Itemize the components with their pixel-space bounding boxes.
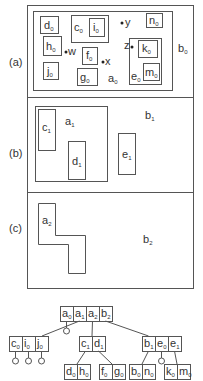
label-b0: b0 [178, 42, 188, 55]
label-n0: n0 [149, 14, 159, 27]
panel-label-b: (b) [9, 147, 22, 159]
label-b1: b1 [145, 109, 155, 122]
tree-edge [142, 351, 149, 364]
tree-cell-label-n0: n0 [144, 365, 154, 378]
label-d0: d0 [44, 19, 54, 32]
label-b2: b2 [143, 233, 153, 246]
label-j0: j0 [46, 65, 53, 78]
label-k0: k0 [142, 42, 152, 55]
tree-cell-label-e0: e0 [157, 337, 167, 350]
null-pointer-icon [64, 328, 70, 334]
label-c0: c0 [74, 21, 84, 34]
hierarchical-region-diagram: (a) (b) (c) b0a0d0c0i0h0f0j0g0n0e0k0m0wx… [0, 0, 203, 381]
tree-cell-label-a2: a2 [88, 307, 98, 320]
tree-cell-label-b1: b1 [144, 337, 154, 350]
tree-cell-label-i0: i0 [24, 337, 30, 350]
panel-b-frame [28, 98, 194, 193]
label-a2: a2 [42, 214, 52, 227]
panel-c-frame [28, 193, 194, 289]
null-pointer-icon [39, 358, 45, 364]
tree-cell-label-d1: d1 [94, 337, 104, 350]
null-pointer-icon [26, 358, 32, 364]
label-m0: m0 [145, 66, 158, 79]
tree-cell-label-f0: f0 [101, 365, 108, 378]
tree-edge [106, 321, 149, 336]
panel-label-c: (c) [9, 222, 22, 234]
panel-label-a: (a) [9, 56, 22, 68]
tree-cell-label-a1: a1 [75, 307, 85, 320]
label-i0: i0 [93, 21, 99, 34]
label-f0: f0 [86, 49, 93, 62]
tree-cell-label-d0: d0 [66, 365, 76, 378]
tree-cell-label-b2: b2 [101, 307, 111, 320]
tree-cell-label-g0: g0 [114, 365, 124, 378]
point-y [121, 22, 124, 25]
label-e1: e1 [122, 148, 132, 161]
tree-cell-label-a0: a0 [62, 307, 72, 320]
label-c1: c1 [42, 121, 52, 134]
label-a0: a0 [108, 72, 118, 85]
tree-edge [99, 351, 113, 364]
label-d1: d1 [72, 155, 82, 168]
label-h0: h0 [46, 40, 56, 53]
tree-edge [92, 321, 93, 336]
region-a1 [36, 107, 108, 182]
tree-edge [77, 351, 86, 364]
tree-cell-label-b0: b0 [131, 365, 141, 378]
tree-cell-label-c1: c1 [81, 337, 91, 350]
label-g0: g0 [80, 71, 90, 84]
tree-edge [42, 321, 80, 336]
label-point-z: z [124, 39, 130, 51]
tree-cell-label-e1: e1 [170, 337, 180, 350]
label-point-x: x [105, 55, 111, 67]
label-a1: a1 [65, 115, 75, 128]
label-e0: e0 [131, 70, 141, 83]
tree-cell-label-c0: c0 [11, 337, 21, 350]
label-point-y: y [125, 16, 131, 28]
tree-edge [175, 351, 178, 364]
tree-cell-label-k0: k0 [166, 365, 176, 378]
null-pointer-icon [159, 358, 165, 364]
tree-cell-label-j0: j0 [36, 337, 43, 350]
label-point-w: w [67, 45, 76, 57]
tree-cell-label-h0: h0 [79, 365, 89, 378]
null-pointer-icon [13, 358, 19, 364]
point-z [131, 46, 134, 49]
